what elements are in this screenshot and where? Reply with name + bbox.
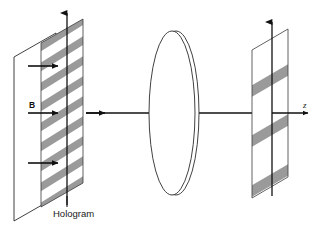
hologram-label: Hologram — [53, 208, 94, 219]
z-axis-label: z — [302, 100, 307, 110]
optics-diagram-figure: B — [0, 0, 321, 226]
b-field-label: B — [29, 100, 35, 110]
output-fringe-stripes — [240, 63, 300, 198]
converging-lens — [149, 31, 199, 195]
diagram-canvas: B — [0, 0, 321, 226]
